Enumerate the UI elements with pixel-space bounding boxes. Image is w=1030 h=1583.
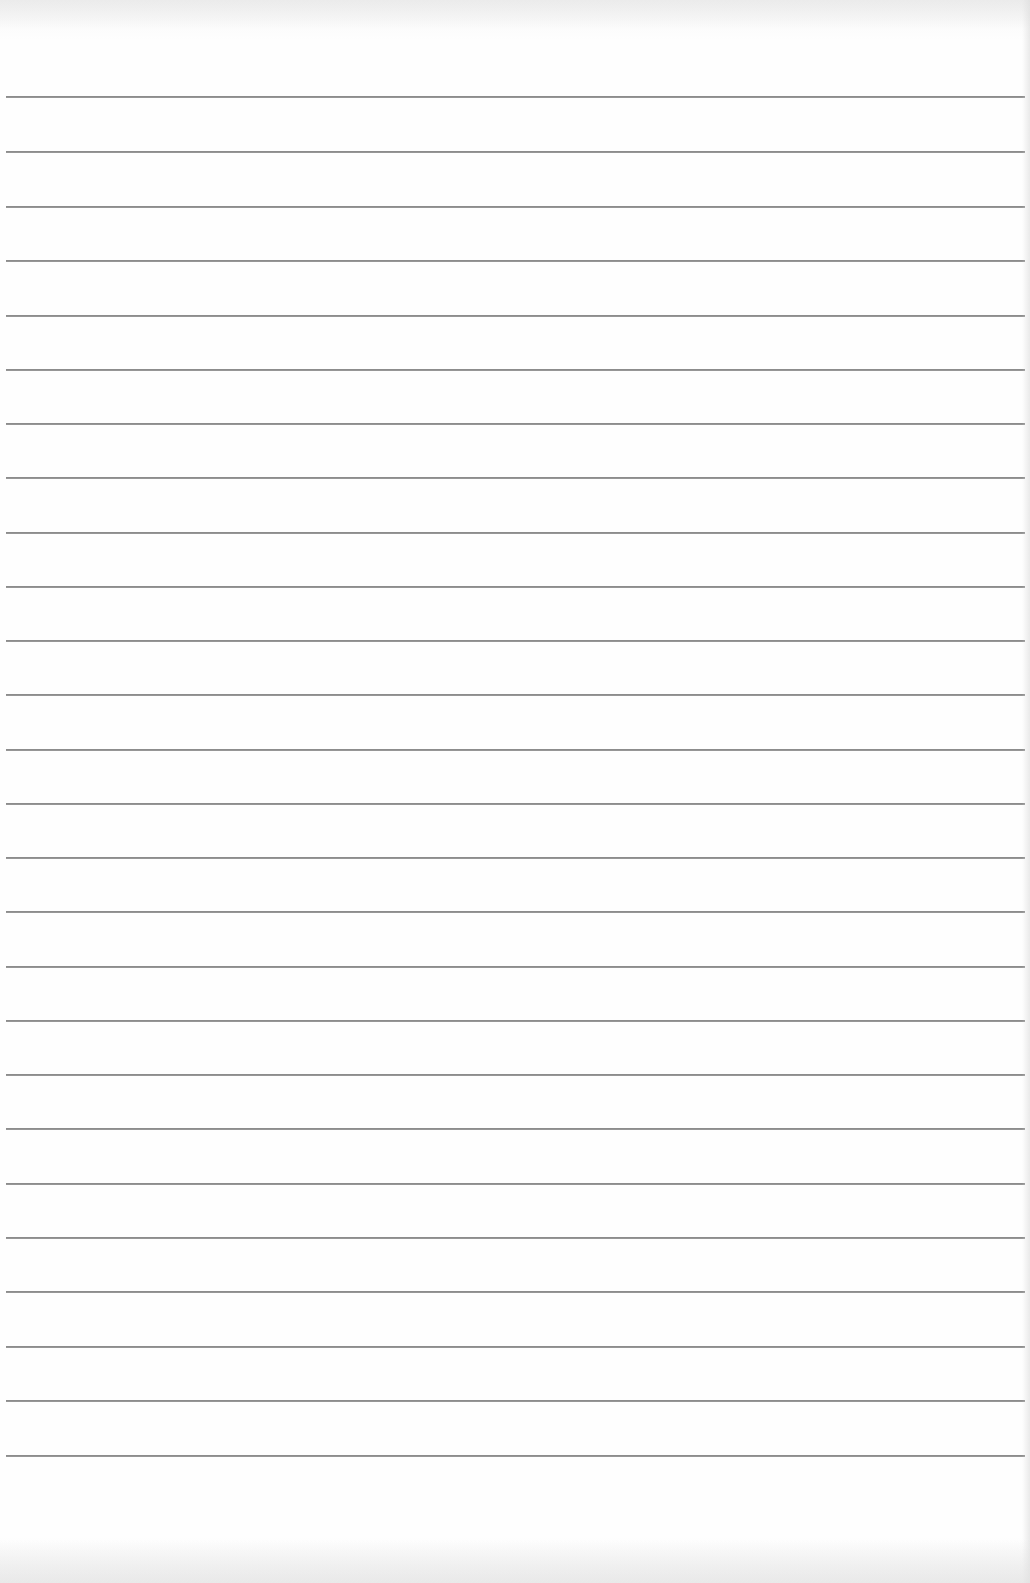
ruled-line [6, 1455, 1025, 1457]
ruled-line [6, 1291, 1025, 1293]
ruled-line [6, 423, 1025, 425]
ruled-line [6, 1346, 1025, 1348]
ruled-line [6, 1237, 1025, 1239]
ruled-line [6, 640, 1025, 642]
ruled-line [6, 369, 1025, 371]
ruled-line [6, 857, 1025, 859]
paper-right-shadow [1022, 0, 1030, 1583]
ruled-line [6, 1074, 1025, 1076]
ruled-line [6, 911, 1025, 913]
ruled-line [6, 1400, 1025, 1402]
ruled-line [6, 1183, 1025, 1185]
paper-top-shadow [0, 0, 1030, 30]
ruled-line [6, 477, 1025, 479]
ruled-line [6, 96, 1025, 98]
lined-paper-sheet [0, 0, 1030, 1583]
ruled-line [6, 206, 1025, 208]
ruled-line [6, 966, 1025, 968]
ruled-line [6, 151, 1025, 153]
ruled-line [6, 749, 1025, 751]
ruled-line [6, 694, 1025, 696]
ruled-line [6, 586, 1025, 588]
ruled-line [6, 1128, 1025, 1130]
ruled-line [6, 260, 1025, 262]
ruled-line [6, 532, 1025, 534]
ruled-line [6, 315, 1025, 317]
ruled-line [6, 803, 1025, 805]
ruled-line [6, 1020, 1025, 1022]
paper-bottom-shadow [0, 1538, 1030, 1583]
